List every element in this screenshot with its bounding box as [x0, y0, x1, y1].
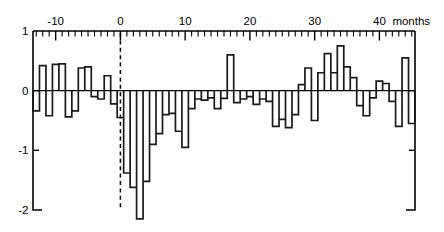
bar-outline-path: [33, 46, 415, 219]
x-tick-label: 20: [243, 15, 256, 27]
y-tick-label: -1: [18, 144, 28, 156]
x-tick-label: 10: [179, 15, 192, 27]
x-tick-label: 30: [308, 15, 321, 27]
left-axis-spine: [33, 31, 42, 210]
y-tick-label: 1: [22, 25, 28, 37]
x-tick-label: 0: [117, 15, 123, 27]
x-tick-label: -10: [47, 15, 64, 27]
x-axis-units-text: months: [392, 15, 430, 27]
plot-frame: [33, 31, 415, 210]
y-tick-label: -2: [18, 204, 28, 216]
bar-series: [33, 46, 415, 219]
bar-chart-figure: -10010203040 10-1-2 months: [0, 0, 444, 232]
x-tick-label: 40: [373, 15, 386, 27]
y-tick-label: 0: [22, 85, 28, 97]
x-axis-units-label: months: [392, 15, 430, 27]
chart-canvas: -10010203040 10-1-2 months: [0, 0, 444, 232]
x-axis-tick-labels: -10010203040: [47, 15, 385, 27]
y-axis-tick-labels: 10-1-2: [18, 25, 28, 216]
